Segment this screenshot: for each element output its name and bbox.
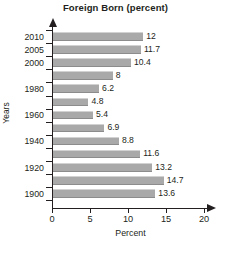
x-axis-tick-label: 15 (154, 214, 178, 224)
bar-value-label: 11.7 (144, 44, 160, 55)
x-axis-line (52, 208, 209, 209)
bar-row: 5.4 (52, 109, 204, 122)
bar-value-label: 6.9 (107, 122, 119, 133)
x-axis-tick-label: 0 (40, 214, 64, 224)
bar-chart: Foreign Born (percent) 1211.710.486.24.8… (0, 0, 231, 257)
plot-area: 1211.710.486.24.85.46.98.811.613.214.713… (0, 0, 231, 257)
y-axis-tick-label: 2000 (2, 58, 44, 68)
bar-row: 11.6 (52, 148, 204, 161)
y-axis-tick-label: 1900 (2, 189, 44, 199)
bar-row: 10.4 (52, 56, 204, 69)
bar-row: 8 (52, 69, 204, 82)
bar-value-label: 11.6 (143, 148, 159, 159)
bar-row: 13.2 (52, 161, 204, 174)
bar-value-label: 5.4 (96, 109, 108, 120)
y-axis-tick-label: 2005 (2, 45, 44, 55)
x-axis-tick (90, 208, 91, 213)
y-axis-tick-label: 2010 (2, 32, 44, 42)
x-axis-tick (128, 208, 129, 213)
x-axis-tick (166, 208, 167, 213)
bar-row: 14.7 (52, 174, 204, 187)
x-axis-tick-label: 10 (116, 214, 140, 224)
y-axis-tick-label: 1920 (2, 163, 44, 173)
bar (52, 111, 93, 120)
y-axis-title: Years (1, 88, 11, 138)
bar (52, 150, 140, 159)
y-axis-arrow-icon (49, 18, 57, 27)
bar (52, 45, 141, 54)
bar-value-label: 13.6 (158, 188, 175, 199)
bar-value-label: 10.4 (134, 57, 151, 68)
x-axis-tick (52, 208, 53, 213)
bar (52, 124, 104, 133)
bar (52, 58, 131, 67)
bar-row: 6.2 (52, 82, 204, 95)
bar-value-label: 6.2 (102, 83, 114, 94)
bar (52, 32, 143, 41)
bar-row: 13.6 (52, 187, 204, 200)
x-axis-title: Percent (52, 228, 209, 238)
bar (52, 84, 99, 93)
bar-row: 11.7 (52, 43, 204, 56)
y-axis-line (52, 26, 53, 208)
x-axis-tick (204, 208, 205, 213)
bar (52, 71, 113, 80)
bar-row: 6.9 (52, 122, 204, 135)
bar-row: 8.8 (52, 135, 204, 148)
bar-value-label: 4.8 (91, 96, 103, 107)
bar-row: 12 (52, 30, 204, 43)
bar-value-label: 13.2 (155, 162, 172, 173)
bar-value-label: 14.7 (167, 175, 184, 186)
bar (52, 98, 88, 107)
bar-value-label: 8 (116, 70, 121, 81)
x-axis-tick-label: 20 (192, 214, 216, 224)
x-axis-tick-label: 5 (78, 214, 102, 224)
bar (52, 163, 152, 172)
bar (52, 189, 155, 198)
bar (52, 137, 119, 146)
bar-value-label: 8.8 (122, 135, 134, 146)
bar-row: 4.8 (52, 96, 204, 109)
x-axis-arrow-icon (207, 204, 216, 212)
bar (52, 176, 164, 185)
bar-value-label: 12 (146, 31, 156, 42)
